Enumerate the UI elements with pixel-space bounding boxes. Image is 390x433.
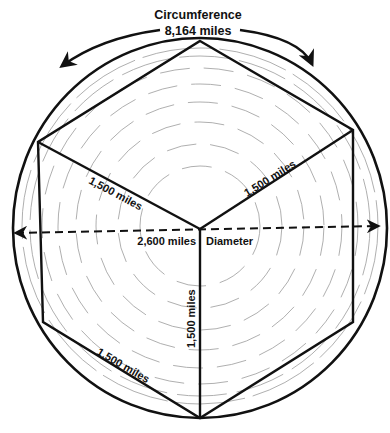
- circumference-value: 8,164 miles: [165, 24, 232, 38]
- inscribed-hexagon: [38, 41, 353, 418]
- circumference-title: Circumference: [154, 8, 242, 22]
- diameter-value-label: 2,600 miles: [137, 235, 196, 247]
- circumference-arrow-right: [240, 30, 312, 64]
- spokes: [38, 130, 353, 418]
- vertical-edge-label: 1,500 miles: [185, 289, 197, 348]
- upper-right-edge-label: 1,500 miles: [242, 157, 298, 198]
- lower-left-edge-label: 1,500 miles: [95, 345, 152, 385]
- circumference-diagram: Circumference 8,164 miles 1,500 miles 1,…: [0, 0, 390, 433]
- diameter-label: Diameter: [206, 235, 254, 247]
